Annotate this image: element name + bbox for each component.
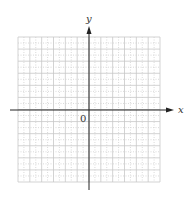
origin-label: 0 <box>80 113 86 124</box>
y-axis-arrow-icon <box>87 26 92 34</box>
y-axis-label: y <box>85 13 92 24</box>
x-axis-arrow-icon <box>166 108 174 113</box>
x-axis-label: x <box>178 104 184 115</box>
coordinate-plane: x y 0 <box>0 0 194 197</box>
